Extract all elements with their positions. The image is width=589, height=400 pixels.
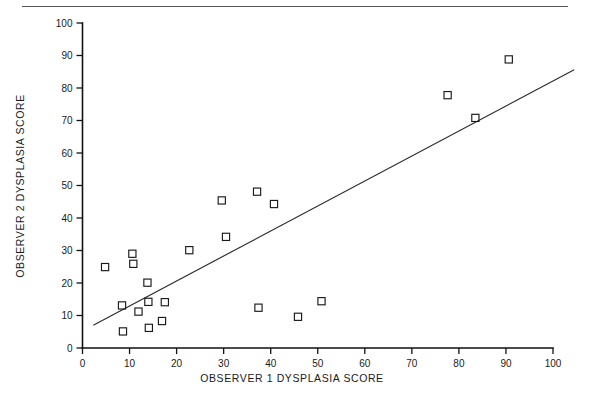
data-point-marker [158, 317, 165, 324]
y-tick-label: 80 [61, 83, 73, 94]
y-tick-label: 30 [61, 245, 73, 256]
data-point-marker [294, 313, 301, 320]
data-point-marker [145, 298, 152, 305]
y-tick-label: 0 [67, 343, 73, 354]
data-point-marker [161, 299, 168, 306]
data-point-group [101, 56, 512, 335]
data-point-marker [505, 56, 512, 63]
data-point-marker [101, 263, 108, 270]
data-point-marker [218, 197, 225, 204]
y-tick-label: 20 [61, 278, 73, 289]
x-tick-label: 10 [124, 358, 136, 369]
data-point-marker [270, 200, 277, 207]
y-tick-label: 70 [61, 115, 73, 126]
x-tick-label: 70 [406, 358, 418, 369]
y-tick-label: 60 [61, 148, 73, 159]
scatter-plot-figure: 0102030405060708090100 01020304050607080… [0, 0, 589, 400]
regression-line [93, 70, 574, 325]
data-point-marker [129, 250, 136, 257]
y-tick-label: 40 [61, 213, 73, 224]
x-tick-label: 50 [312, 358, 324, 369]
y-axis-ticks: 0102030405060708090100 [56, 18, 83, 354]
x-tick-label: 60 [359, 358, 371, 369]
x-tick-label: 30 [218, 358, 230, 369]
x-tick-label: 0 [80, 358, 86, 369]
x-tick-label: 90 [500, 358, 512, 369]
data-point-marker [144, 279, 151, 286]
data-point-marker [186, 247, 193, 254]
data-point-marker [318, 298, 325, 305]
data-point-marker [130, 260, 137, 267]
data-point-marker [135, 308, 142, 315]
y-tick-label: 10 [61, 310, 73, 321]
x-axis-title: OBSERVER 1 DYSPLASIA SCORE [200, 372, 383, 384]
y-tick-label: 100 [56, 18, 73, 29]
x-tick-label: 100 [545, 358, 562, 369]
x-tick-label: 80 [453, 358, 465, 369]
x-tick-label: 40 [265, 358, 277, 369]
data-point-marker [222, 233, 229, 240]
data-point-marker [118, 302, 125, 309]
y-tick-label: 50 [61, 180, 73, 191]
data-point-marker [119, 328, 126, 335]
data-point-marker [253, 188, 260, 195]
data-point-marker [444, 92, 451, 99]
y-axis-title: OBSERVER 2 DYSPLASIA SCORE [14, 94, 26, 277]
data-point-marker [145, 324, 152, 331]
x-axis-ticks: 0102030405060708090100 [80, 348, 562, 369]
data-point-marker [255, 304, 262, 311]
x-tick-label: 20 [171, 358, 183, 369]
y-tick-label: 90 [61, 50, 73, 61]
